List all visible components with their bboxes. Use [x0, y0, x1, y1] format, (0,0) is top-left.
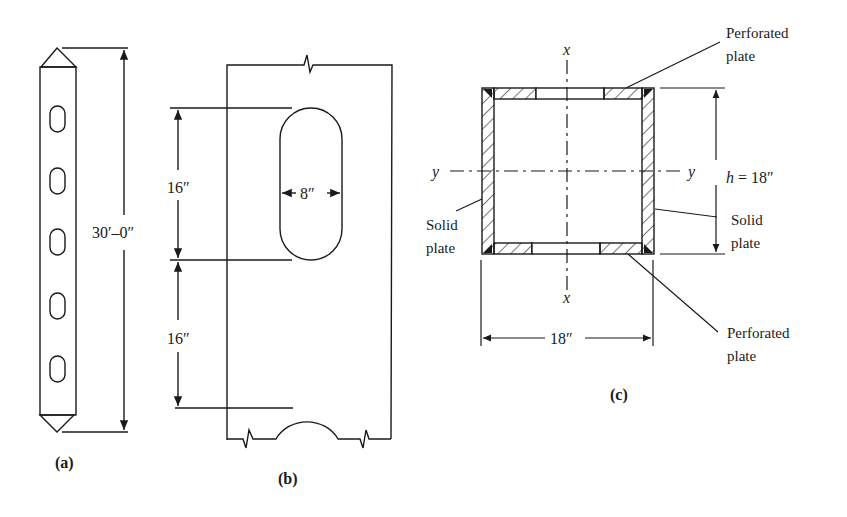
column-length-label: 30′–0″	[92, 224, 134, 241]
figure-canvas: 30′–0″ (a) 16″ 16″ 8″ (b)	[0, 0, 847, 517]
bottom-perforated-plate-gap	[532, 243, 600, 254]
bottom-perforated-plate-right	[600, 243, 642, 254]
top-callout-label: Perforated plate	[726, 25, 792, 64]
spacing-bottom-label: 16″	[167, 330, 190, 347]
caption-c: (c)	[610, 386, 628, 404]
caption-b: (b)	[278, 470, 298, 488]
x-axis-label-top: x	[562, 41, 570, 58]
caption-a: (a)	[55, 454, 74, 472]
right-callout-label: Solid plate	[731, 212, 766, 251]
bottom-callout-label: Perforated plate	[727, 325, 793, 364]
plate-detail	[170, 55, 392, 448]
left-callout-label: Solid plate	[426, 217, 461, 256]
height-label: h = 18″	[726, 169, 774, 186]
spacing-top-label: 16″	[167, 179, 190, 196]
top-callout-leader	[626, 42, 720, 88]
column-slot-5	[50, 356, 65, 382]
width-label: 18″	[550, 330, 573, 347]
slot-width-label: 8″	[300, 185, 315, 202]
plate-slot	[280, 108, 342, 260]
plate-outline-top	[227, 55, 392, 440]
column-top-point	[41, 48, 76, 67]
x-axis-label-bottom: x	[562, 289, 570, 306]
top-perforated-plate-left	[494, 88, 536, 99]
right-callout-leader	[655, 209, 717, 217]
top-perforated-plate-right	[604, 88, 642, 99]
column-slot-2	[50, 168, 65, 194]
y-axis-label-right: y	[686, 163, 696, 181]
left-callout-leader	[456, 199, 482, 211]
column-bottom-point	[40, 415, 74, 432]
bottom-callout-leader	[628, 254, 718, 332]
plate-outline-bottom	[227, 422, 391, 448]
column-slot-1	[50, 106, 65, 132]
column-slot-3	[50, 229, 65, 255]
column-body	[40, 67, 76, 415]
top-perforated-plate-gap	[536, 88, 604, 99]
column-slot-4	[50, 293, 65, 319]
bottom-perforated-plate-left	[494, 243, 532, 254]
y-axis-label-left: y	[430, 163, 440, 181]
